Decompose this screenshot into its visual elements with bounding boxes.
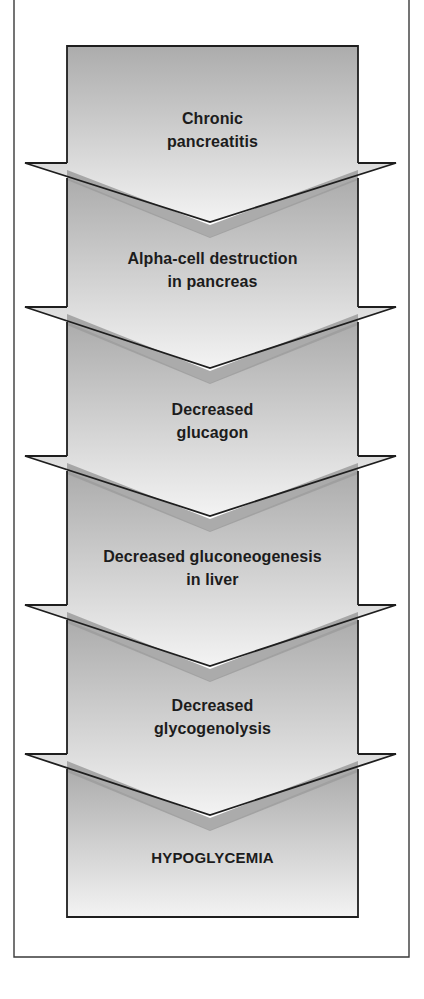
outcome-text: HYPOGLYCEMIA: [67, 846, 358, 869]
flow-step-5-label: Decreased glycogenolysis: [67, 694, 358, 740]
flow-step-2-line1: Alpha-cell destruction: [67, 247, 358, 270]
flow-step-4-label: Decreased gluconeogenesis in liver: [67, 545, 358, 591]
flow-step-1-label: Chronic pancreatitis: [67, 107, 358, 153]
flow-step-1-line2: pancreatitis: [67, 130, 358, 153]
flow-step-4-line1: Decreased gluconeogenesis: [67, 545, 358, 568]
flow-step-2-label: Alpha-cell destruction in pancreas: [67, 247, 358, 293]
flow-step-5-line2: glycogenolysis: [67, 717, 358, 740]
flow-step-3-line1: Decreased: [67, 398, 358, 421]
flow-step-3-label: Decreased glucagon: [67, 398, 358, 444]
flow-step-5-line1: Decreased: [67, 694, 358, 717]
flow-step-1-line1: Chronic: [67, 107, 358, 130]
flow-step-4-line2: in liver: [67, 568, 358, 591]
outcome-label: HYPOGLYCEMIA: [67, 846, 358, 869]
flow-step-2-line2: in pancreas: [67, 270, 358, 293]
flow-step-3-line2: glucagon: [67, 421, 358, 444]
